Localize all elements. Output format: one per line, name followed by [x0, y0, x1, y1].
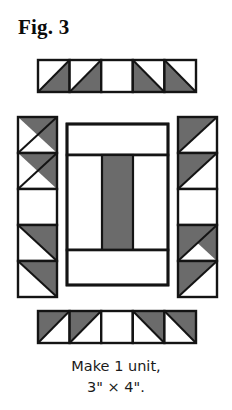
caption-line-2: 3" × 4". — [0, 377, 232, 398]
left-column-cell-4 — [18, 225, 57, 261]
right-column-cell-5 — [178, 261, 217, 297]
caption-line-1: Make 1 unit, — [0, 356, 232, 377]
right-column-cell-3 — [178, 189, 217, 225]
left-column — [18, 117, 57, 297]
bottom-row-cell-2 — [70, 311, 102, 343]
right-column-cell-2 — [178, 153, 217, 189]
center-panel-top-bar — [67, 124, 168, 155]
right-column — [178, 117, 217, 297]
top-row-cell-5 — [164, 60, 196, 92]
bottom-row-cell-5 — [164, 311, 196, 343]
quilt-block-diagram — [0, 0, 232, 360]
top-row-cell-1 — [38, 60, 70, 92]
left-column-cell-1 — [18, 117, 57, 153]
left-column-cell-2 — [18, 153, 57, 189]
bottom-row-cell-4 — [133, 311, 165, 343]
bottom-row-cell-3 — [101, 311, 133, 343]
left-column-cell-3 — [18, 189, 57, 225]
top-row-cell-2 — [70, 60, 102, 92]
right-column-cell-4 — [178, 225, 217, 261]
right-column-cell-1 — [178, 117, 217, 153]
center-panel-rail — [102, 155, 133, 250]
bottom-row-cell-1 — [38, 311, 70, 343]
center-panel-bottom-bar — [67, 250, 168, 285]
figure-container: Fig. 3 — [0, 0, 232, 410]
figure-caption: Make 1 unit, 3" × 4". — [0, 356, 232, 398]
left-column-cell-5 — [18, 261, 57, 297]
bottom-row — [38, 311, 196, 343]
center-panel — [67, 124, 168, 285]
top-row — [38, 60, 196, 92]
top-row-cell-3 — [101, 60, 133, 92]
top-row-cell-4 — [133, 60, 165, 92]
